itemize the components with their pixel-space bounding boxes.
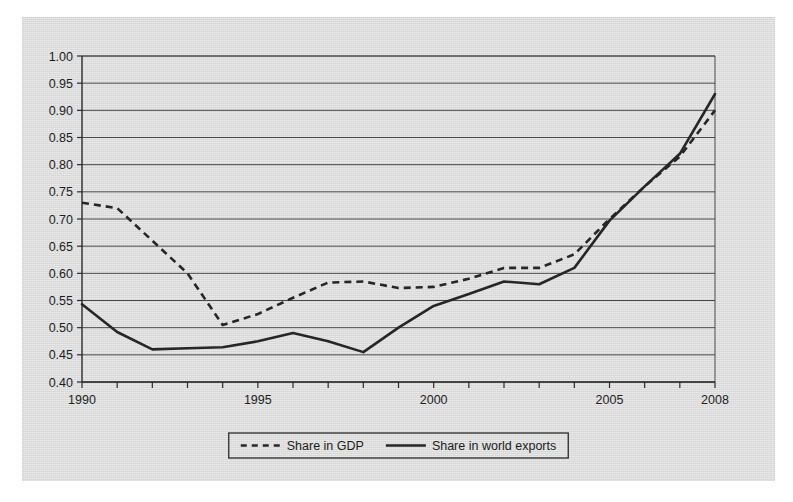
gridlines-group [82, 56, 715, 382]
y-tick-label: 0.60 [49, 267, 73, 281]
y-tick-label: 0.90 [49, 104, 73, 118]
y-tick-label: 0.45 [49, 348, 73, 362]
y-tick-label: 0.75 [49, 185, 73, 199]
series-line-share-in-gdp [82, 110, 715, 325]
x-tick-label: 1990 [68, 393, 96, 407]
y-tick-label: 0.70 [49, 213, 73, 227]
x-tick-label: 2005 [596, 393, 624, 407]
legend-label-share-in-world-exports: Share in world exports [432, 439, 556, 453]
y-tick-label: 0.65 [49, 240, 73, 254]
x-tick-label: 2000 [420, 393, 448, 407]
y-tick-label: 0.50 [49, 321, 73, 335]
x-tick-labels-group: 19901995200020052008 [68, 393, 729, 407]
y-tick-label: 0.55 [49, 294, 73, 308]
chart-legend: Share in GDP Share in world exports [229, 433, 569, 458]
y-tick-label: 0.40 [49, 376, 73, 390]
y-tick-label: 0.80 [49, 158, 73, 172]
line-chart: 0.400.450.500.550.600.650.700.750.800.85… [22, 17, 775, 481]
series-line-share-in-world-exports [82, 94, 715, 352]
chart-figure: 0.400.450.500.550.600.650.700.750.800.85… [0, 0, 793, 502]
y-tick-label: 1.00 [49, 50, 73, 64]
y-tick-label: 0.85 [49, 131, 73, 145]
y-tick-label: 0.95 [49, 77, 73, 91]
y-tick-marks-group [77, 56, 82, 382]
x-tick-label: 1995 [244, 393, 272, 407]
legend-label-share-in-gdp: Share in GDP [287, 439, 364, 453]
y-tick-labels-group: 0.400.450.500.550.600.650.700.750.800.85… [49, 50, 73, 390]
x-tick-label: 2008 [701, 393, 729, 407]
x-tick-marks-group [82, 382, 715, 388]
scanned-chart-panel: 0.400.450.500.550.600.650.700.750.800.85… [22, 17, 775, 481]
